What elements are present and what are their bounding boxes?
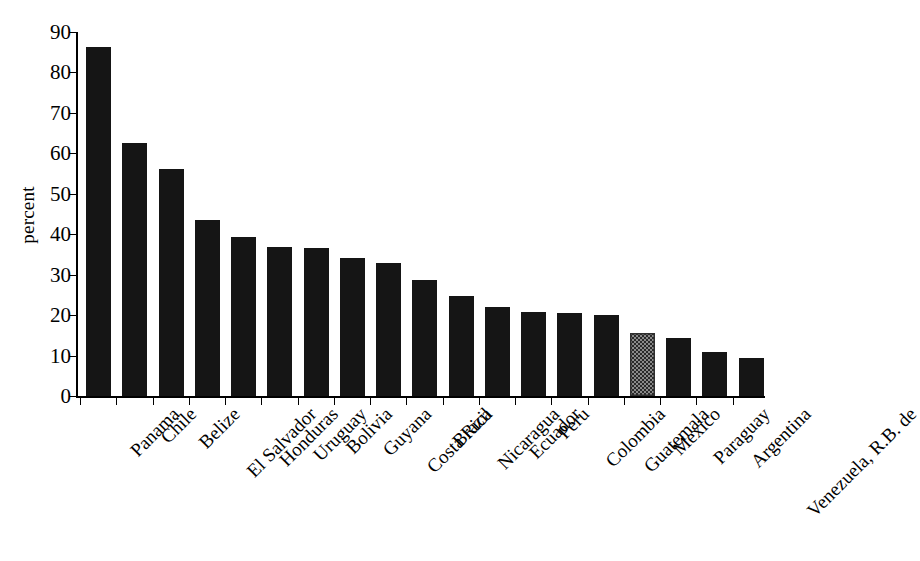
y-axis-tick-label: 20 bbox=[50, 305, 71, 326]
bar-costa-rica bbox=[376, 263, 401, 396]
y-axis-tick-label: 60 bbox=[50, 143, 71, 164]
x-axis-label-el-salvador: El Salvador bbox=[243, 404, 320, 481]
x-axis-tick-mark bbox=[406, 398, 407, 405]
x-axis-label-colombia: Colombia bbox=[602, 404, 668, 470]
x-axis-label-text: Peru bbox=[554, 404, 592, 442]
x-axis-label-nicaragua: Nicaragua bbox=[494, 404, 563, 473]
bar-ecuador bbox=[485, 307, 510, 396]
x-axis-tick-mark bbox=[334, 398, 335, 405]
x-axis-label-text: Belize bbox=[195, 404, 243, 452]
x-axis-tick-mark bbox=[551, 398, 552, 405]
y-axis-title: percent bbox=[0, 0, 56, 430]
x-axis-tick-mark bbox=[515, 398, 516, 405]
x-axis-tick-mark bbox=[588, 398, 589, 405]
bar-uruguay bbox=[267, 247, 292, 396]
x-axis-tick-mark bbox=[80, 398, 81, 405]
bar-colombia bbox=[557, 313, 582, 396]
x-axis-label-text: Venezuela, R.B. de bbox=[804, 404, 920, 520]
x-axis-label-mexico: Mexico bbox=[669, 404, 723, 458]
x-axis-label-text: Mexico bbox=[669, 404, 723, 458]
x-axis-label-text: Chile bbox=[157, 404, 200, 447]
bar-argentina bbox=[702, 352, 727, 396]
x-axis-label-text: Costa Rica bbox=[423, 404, 495, 476]
x-axis-label-ecuador: Ecuador bbox=[526, 404, 584, 462]
bar-honduras bbox=[231, 237, 256, 396]
bar-bolivia bbox=[304, 248, 329, 396]
x-axis-tick-mark bbox=[660, 398, 661, 405]
plot-area: 0102030405060708090 bbox=[76, 32, 765, 396]
x-axis-label-paraguay: Paraguay bbox=[709, 404, 772, 467]
x-axis-tick-mark bbox=[225, 398, 226, 405]
x-axis-label-text: Ecuador bbox=[526, 404, 584, 462]
bar-nicaragua bbox=[449, 296, 474, 396]
x-axis-label-guatemala: Guatemala bbox=[640, 404, 712, 476]
x-axis-label-guyana: Guyana bbox=[380, 404, 435, 459]
x-axis-tick-mark bbox=[298, 398, 299, 405]
y-axis-tick-label: 80 bbox=[50, 62, 71, 83]
y-axis-tick-label: 70 bbox=[50, 102, 71, 123]
x-axis-label-panama: Panama bbox=[126, 404, 182, 460]
y-axis-title-text: percent bbox=[17, 186, 39, 243]
x-axis-label-venezuela-r-b-de: Venezuela, R.B. de bbox=[804, 404, 920, 520]
x-axis-tick-mark bbox=[189, 398, 190, 405]
x-axis-label-text: Uruguay bbox=[309, 404, 369, 464]
x-axis-tick-mark bbox=[370, 398, 371, 405]
x-axis-label-costa-rica: Costa Rica bbox=[423, 404, 495, 476]
bar-panama bbox=[86, 47, 111, 396]
bar-belize bbox=[159, 169, 184, 396]
x-axis-label-text: Panama bbox=[126, 404, 182, 460]
x-axis-label-peru: Peru bbox=[554, 404, 592, 442]
x-axis-label-text: Guyana bbox=[380, 404, 435, 459]
x-axis-label-honduras: Honduras bbox=[275, 404, 341, 470]
x-axis-label-text: El Salvador bbox=[243, 404, 320, 481]
x-axis-label-chile: Chile bbox=[157, 404, 200, 447]
x-axis-line bbox=[76, 396, 765, 398]
x-axis-label-text: Honduras bbox=[275, 404, 341, 470]
y-axis-tick-label: 50 bbox=[50, 183, 71, 204]
x-axis-label-uruguay: Uruguay bbox=[309, 404, 369, 464]
bar-brazil bbox=[412, 280, 437, 396]
x-axis-tick-mark bbox=[624, 398, 625, 405]
x-axis-label-text: Bolivia bbox=[342, 404, 395, 457]
x-axis-tick-mark bbox=[261, 398, 262, 405]
x-axis-label-argentina: Argentina bbox=[747, 404, 814, 471]
x-axis-tick-mark bbox=[733, 398, 734, 405]
x-axis-label-bolivia: Bolivia bbox=[342, 404, 395, 457]
x-axis-label-belize: Belize bbox=[195, 404, 243, 452]
x-axis-tick-mark bbox=[153, 398, 154, 405]
bar-el-salvador bbox=[195, 220, 220, 396]
bar-venezuela-r-b-de bbox=[739, 358, 764, 396]
bar-mexico bbox=[630, 333, 655, 396]
y-axis-tick-label: 10 bbox=[50, 345, 71, 366]
x-axis-label-brazil: Brazil bbox=[448, 404, 494, 450]
x-axis-label-text: Nicaragua bbox=[494, 404, 563, 473]
y-axis-tick-label: 40 bbox=[50, 224, 71, 245]
x-axis-label-text: Paraguay bbox=[709, 404, 772, 467]
bar-guatemala bbox=[594, 315, 619, 396]
x-axis-label-text: Argentina bbox=[747, 404, 814, 471]
x-axis-tick-mark bbox=[696, 398, 697, 405]
y-axis-tick-label: 30 bbox=[50, 264, 71, 285]
y-axis-tick-label: 90 bbox=[50, 22, 71, 43]
y-axis-tick-label: 0 bbox=[61, 386, 72, 407]
bar-paraguay bbox=[666, 338, 691, 396]
bar-chile bbox=[122, 143, 147, 396]
x-axis-label-text: Colombia bbox=[602, 404, 668, 470]
x-axis-label-text: Guatemala bbox=[640, 404, 712, 476]
bar-peru bbox=[521, 312, 546, 396]
x-axis-label-text: Brazil bbox=[448, 404, 494, 450]
y-axis-line bbox=[76, 32, 78, 396]
x-axis-tick-mark bbox=[479, 398, 480, 405]
x-axis-tick-mark bbox=[116, 398, 117, 405]
bar-guyana bbox=[340, 258, 365, 396]
x-axis-tick-mark bbox=[443, 398, 444, 405]
